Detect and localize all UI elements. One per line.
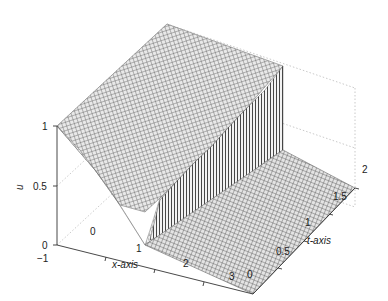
t-tick-1-5: 1.5	[333, 191, 347, 202]
x-tick-0: 0	[90, 226, 96, 237]
u-tick-0-5: 0.5	[33, 181, 47, 192]
t-axis-label: t-axis	[307, 235, 331, 246]
x-tick-1: 1	[136, 243, 142, 254]
t-tick-2: 2	[362, 164, 368, 175]
u-tick-0: 0	[42, 240, 48, 251]
t-tick-0: 0	[247, 269, 253, 280]
t-tick-0-5: 0.5	[276, 246, 290, 257]
x-tick-2: 2	[183, 258, 189, 269]
x-axis-label: x-axis	[111, 259, 138, 270]
x-tick-neg1: −1	[37, 253, 49, 264]
x-tick-3: 3	[229, 271, 235, 282]
u-axis-label: u	[14, 184, 25, 190]
u-tick-1: 1	[42, 121, 48, 132]
surface-plot: 1 0.5 0 u −1 0 1 2 3 x-axis 0 0.5 1 1.5 …	[0, 0, 388, 301]
t-tick-1: 1	[305, 217, 311, 228]
